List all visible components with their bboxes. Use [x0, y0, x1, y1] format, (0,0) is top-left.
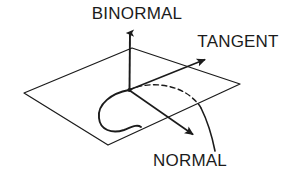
space-curve-descending: [201, 108, 215, 151]
space-curve-solid: [99, 90, 141, 132]
frenet-frame-diagram: BINORMAL TANGENT NORMAL: [0, 0, 294, 175]
binormal-label: BINORMAL: [92, 4, 182, 23]
normal-vector: [129, 90, 193, 135]
normal-label: NORMAL: [153, 151, 227, 170]
binormal-vector: [130, 33, 131, 90]
osculating-plane: [24, 48, 240, 145]
tangent-label: TANGENT: [197, 32, 278, 51]
diagram-canvas: BINORMAL TANGENT NORMAL: [0, 0, 294, 175]
frame-origin-point: [127, 88, 131, 92]
space-curve-dashed: [129, 85, 201, 108]
